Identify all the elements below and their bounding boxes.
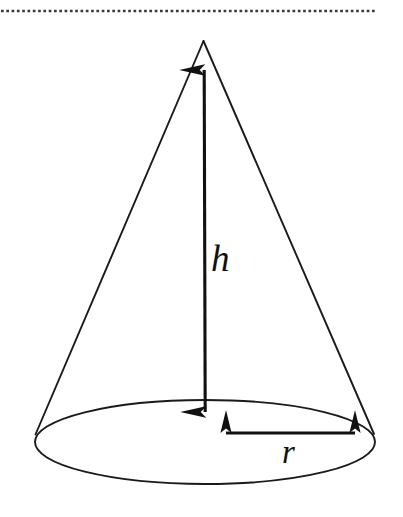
cone-diagram-canvas (0, 0, 403, 517)
cone-base-ellipse (35, 400, 375, 484)
radius-label: r (282, 436, 295, 469)
height-label: h (211, 240, 230, 277)
cone-left-slant (36, 41, 204, 435)
cone-figure: h r (0, 0, 403, 517)
height-arrow-shaft (204, 70, 205, 412)
height-arrow (204, 70, 205, 412)
